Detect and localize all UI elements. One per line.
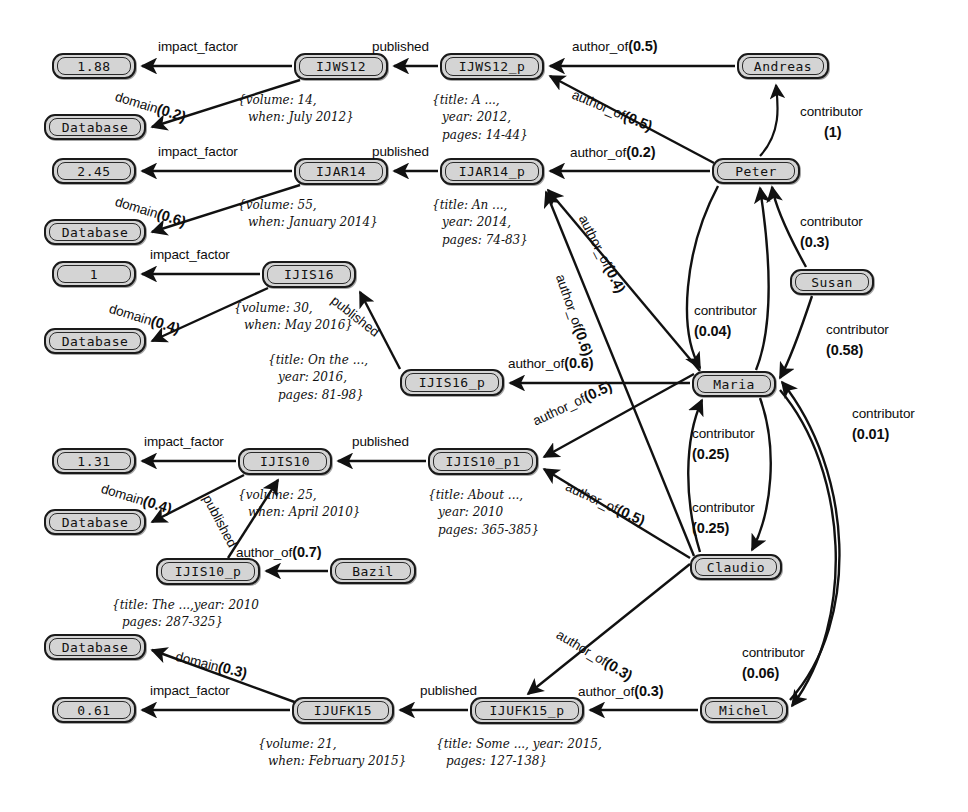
edge-label-author-of: author_of(0.2) — [570, 144, 655, 161]
node-journal-ijufk15[interactable]: IJUFK15 — [292, 697, 394, 724]
attributes-ijis10-p: {title: The ...,year: 2010 pages: 287-32… — [112, 597, 259, 632]
node-paper-ijar14-p[interactable]: IJAR14_p — [440, 158, 544, 185]
edge-label-impact-factor: impact_factor — [150, 682, 230, 699]
edge-label-published: published — [420, 682, 477, 699]
node-person-susan[interactable]: Susan — [790, 269, 874, 295]
node-journal-ijar14[interactable]: IJAR14 — [294, 158, 388, 185]
node-label: IJAR14_p — [459, 164, 526, 179]
attr-line: {title: Some ..., year: 2015, — [436, 736, 602, 753]
edge-label-contributor: contributor — [800, 214, 863, 230]
node-label: IJIS10 — [260, 454, 310, 469]
edge-label-contributor: contributor — [692, 500, 755, 516]
node-label: IJIS16 — [284, 267, 334, 282]
node-impact-factor-0-61[interactable]: 0.61 — [52, 697, 136, 723]
node-label: Claudio — [707, 560, 765, 575]
attr-line: {volume: 30, — [234, 300, 353, 317]
node-impact-factor-1-31[interactable]: 1.31 — [52, 448, 136, 474]
node-journal-ijis16[interactable]: IJIS16 — [262, 261, 356, 288]
node-paper-ijufk15-p[interactable]: IJUFK15_p — [470, 697, 584, 724]
node-label: IJWS12_p — [459, 59, 526, 74]
edge-contributor-peter-maria — [687, 186, 718, 368]
attr-line: pages: 365-385} — [428, 522, 539, 539]
attr-line: year: 2016, — [268, 369, 368, 386]
node-person-peter[interactable]: Peter — [712, 158, 800, 184]
edge-label-contributor: contributor — [826, 322, 889, 338]
attributes-ijufk15-p: {title: Some ..., year: 2015, pages: 127… — [436, 736, 602, 771]
graph-canvas: 1.88 Database IJWS12 IJWS12_p Andreas 2.… — [0, 0, 968, 812]
node-label: IJUFK15_p — [490, 703, 565, 718]
node-impact-factor-2-45[interactable]: 2.45 — [52, 158, 136, 184]
edge-label-contributor-weight: (0.25) — [692, 446, 729, 463]
node-database-1[interactable]: Database — [44, 114, 146, 140]
node-label: Database — [62, 120, 129, 135]
node-person-michel[interactable]: Michel — [700, 697, 788, 723]
edge-label-published: published — [372, 143, 429, 160]
node-database-3[interactable]: Database — [44, 328, 146, 354]
attr-line: when: April 2010} — [238, 504, 360, 521]
attr-line: {title: An ..., — [432, 197, 528, 214]
attr-line: year: 2012, — [432, 109, 528, 126]
node-database-2[interactable]: Database — [44, 219, 146, 245]
node-label: Database — [62, 225, 129, 240]
edge-label-impact-factor: impact_factor — [158, 38, 238, 55]
edge-label-contributor-weight: (0.04) — [694, 323, 731, 340]
edge-label-impact-factor: impact_factor — [150, 246, 230, 263]
node-paper-ijis10-p1[interactable]: IJIS10_p1 — [428, 448, 538, 475]
node-label: Database — [62, 334, 129, 349]
node-person-bazil[interactable]: Bazil — [330, 558, 416, 584]
attr-line: pages: 81-98} — [268, 387, 368, 404]
node-journal-ijis10[interactable]: IJIS10 — [238, 448, 332, 475]
attr-line: year: 2014, — [432, 214, 528, 231]
node-label: 1.31 — [77, 454, 110, 469]
edge-label-author-of: author_of(0.3) — [578, 683, 663, 700]
attr-line: when: May 2016} — [234, 317, 353, 334]
edge-label-impact-factor: impact_factor — [158, 143, 238, 160]
node-label: Database — [62, 515, 129, 530]
node-label: 0.61 — [77, 703, 110, 718]
node-label: 1 — [90, 267, 98, 282]
attr-line: {title: A ..., — [432, 92, 528, 109]
edge-label-author-of: author_of(0.5) — [572, 38, 657, 55]
attributes-ijar14: {volume: 55, when: January 2014} — [238, 197, 378, 232]
node-person-andreas[interactable]: Andreas — [737, 53, 829, 79]
attr-line: {volume: 21, — [258, 736, 406, 753]
edge-label-impact-factor: impact_factor — [144, 433, 224, 450]
node-paper-ijws12-p[interactable]: IJWS12_p — [440, 53, 544, 80]
node-label: Database — [62, 640, 129, 655]
attr-line: year: 2010 — [428, 504, 539, 521]
edge-label-contributor: contributor — [800, 104, 863, 120]
attributes-ijws12: {volume: 14, when: July 2012} — [238, 92, 354, 127]
edge-label-contributor: contributor — [742, 645, 805, 661]
edge-label-contributor: contributor — [694, 303, 757, 319]
attributes-ijis16: {volume: 30, when: May 2016} — [234, 300, 353, 335]
node-label: IJUFK15 — [314, 703, 372, 718]
edge-label-contributor-weight: (1) — [824, 124, 841, 141]
node-label: IJIS10_p1 — [446, 454, 521, 469]
node-impact-factor-1-88[interactable]: 1.88 — [52, 53, 136, 79]
node-person-maria[interactable]: Maria — [692, 371, 776, 397]
attributes-ijufk15: {volume: 21, when: February 2015} — [258, 736, 406, 771]
attr-line: pages: 127-138} — [436, 753, 602, 770]
node-paper-ijis10-p[interactable]: IJIS10_p — [156, 558, 260, 585]
edge-contributor-susan-maria — [780, 296, 812, 378]
node-impact-factor-1[interactable]: 1 — [52, 261, 136, 287]
node-database-5[interactable]: Database — [44, 634, 146, 660]
attr-line: {title: On the ..., — [268, 352, 368, 369]
node-database-4[interactable]: Database — [44, 509, 146, 535]
node-paper-ijis16-p[interactable]: IJIS16_p — [400, 369, 504, 396]
node-label: Michel — [719, 703, 769, 718]
node-person-claudio[interactable]: Claudio — [690, 554, 782, 580]
node-journal-ijws12[interactable]: IJWS12 — [294, 53, 388, 80]
attr-line: {volume: 55, — [238, 197, 378, 214]
edge-label-published: published — [352, 433, 409, 450]
attributes-ijar14-p: {title: An ..., year: 2014, pages: 74-83… — [432, 197, 528, 249]
edge-label-contributor-weight: (0.06) — [742, 665, 779, 682]
node-label: IJWS12 — [316, 59, 366, 74]
node-label: IJIS10_p — [175, 564, 242, 579]
attr-line: when: July 2012} — [238, 109, 354, 126]
edge-label-author-of: author_of(0.7) — [236, 544, 321, 561]
attributes-ijis16-p: {title: On the ..., year: 2016, pages: 8… — [268, 352, 368, 404]
edge-label-contributor-weight: (0.3) — [800, 234, 829, 251]
attr-line: when: February 2015} — [258, 753, 406, 770]
attr-line: {title: About ..., — [428, 487, 539, 504]
